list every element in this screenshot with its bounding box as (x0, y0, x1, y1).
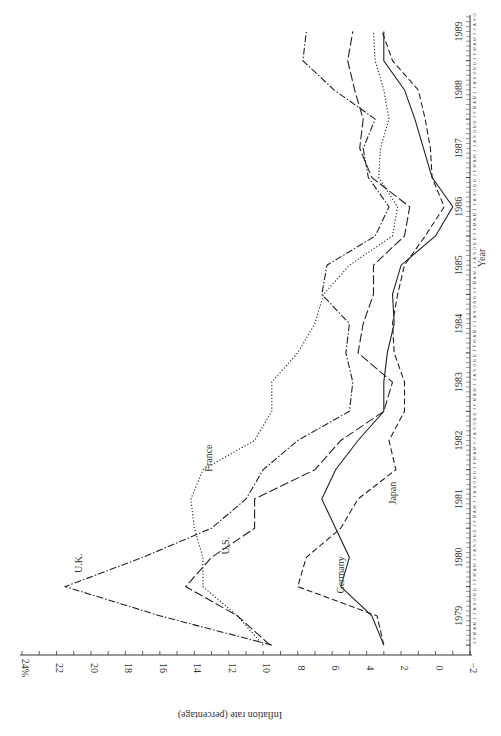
month-tick-label: O (472, 481, 477, 484)
month-tick-label: O (472, 422, 477, 425)
month-tick-label: N (472, 242, 477, 245)
month-tick-label: D (472, 413, 477, 416)
month-tick-label: M (472, 330, 477, 333)
month-tick-label: M (472, 47, 477, 50)
month-tick-label: S (472, 427, 477, 430)
month-tick-label: N (472, 359, 477, 362)
month-tick-label: O (472, 130, 477, 133)
month-tick-label: J (472, 442, 477, 444)
month-tick-label: F (472, 578, 477, 581)
month-tick-label: J (472, 321, 477, 323)
month-tick-label: S (472, 135, 477, 138)
month-tick-label: M (472, 164, 477, 167)
month-tick-label: A (472, 140, 477, 143)
month-tick-label: S (472, 602, 477, 605)
month-tick-label: D (472, 296, 477, 299)
month-tick-label: F (472, 286, 477, 289)
month-tick-label: M (472, 38, 477, 41)
year-tick-label: 1985 (453, 255, 464, 275)
series-label: Germany (335, 556, 346, 593)
month-tick-label: J (472, 584, 477, 586)
month-tick-label: F (472, 169, 477, 172)
x-axis-title: Year (476, 248, 487, 267)
month-tick-label: O (472, 189, 477, 192)
month-tick-label: A (472, 42, 477, 45)
month-tick-label: A (472, 451, 477, 454)
month-tick-label: S (472, 369, 477, 372)
y-tick-label: 18 (123, 663, 134, 673)
month-tick-label: N (472, 301, 477, 304)
y-tick-label: 2 (399, 666, 410, 671)
month-tick-label: A (472, 627, 477, 630)
y-tick-label: 10 (261, 663, 272, 673)
year-axis: JFMAMJJASONDJFMAMJJASONDJFMAMJJASONDJFMA… (453, 13, 477, 655)
series-label: Japan (387, 482, 398, 505)
y-tick-label: 6 (330, 666, 341, 671)
month-tick-label: J (472, 467, 477, 469)
year-tick-label: 1986 (453, 197, 464, 217)
month-tick-label: J (472, 33, 477, 35)
month-tick-label: J (472, 233, 477, 235)
y-tick-label: 24% (20, 659, 31, 677)
month-tick-label: F (472, 636, 477, 639)
month-tick-label: A (472, 607, 477, 610)
month-tick-label: M (472, 154, 477, 157)
series-label: France (203, 444, 214, 472)
month-tick-label: M (472, 106, 477, 109)
month-tick-label: O (472, 13, 477, 16)
month-tick-label: M (472, 388, 477, 391)
month-tick-label: J (472, 525, 477, 527)
month-tick-label: M (472, 447, 477, 450)
month-tick-label: N (472, 184, 477, 187)
month-tick-label: A (472, 276, 477, 279)
month-tick-label: J (472, 384, 477, 386)
month-tick-label: D (472, 354, 477, 357)
month-tick-label: N (472, 534, 477, 537)
month-tick-label: J (472, 379, 477, 381)
month-tick-label: D (472, 237, 477, 240)
month-tick-label: J (472, 326, 477, 328)
month-tick-label: D (472, 529, 477, 532)
month-tick-label: O (472, 539, 477, 542)
month-tick-label: J (472, 496, 477, 498)
month-tick-label: F (472, 110, 477, 113)
month-tick-label: D (472, 179, 477, 182)
month-tick-label: N (472, 67, 477, 70)
month-tick-label: F (472, 344, 477, 347)
month-tick-label: J (472, 559, 477, 561)
month-tick-label: J (472, 501, 477, 503)
year-tick-label: 1987 (453, 138, 464, 158)
month-tick-label: M (472, 505, 477, 508)
month-tick-label: N (472, 476, 477, 479)
y-tick-label: 16 (158, 663, 169, 673)
year-tick-label: 1983 (453, 372, 464, 392)
month-tick-label: A (472, 432, 477, 435)
month-tick-label: A (472, 374, 477, 377)
month-tick-label: M (472, 632, 477, 635)
month-tick-label: M (472, 223, 477, 226)
month-tick-label: S (472, 310, 477, 313)
month-tick-label: J (472, 408, 477, 410)
month-tick-label: S (472, 18, 477, 21)
series-labels: U.K.U.S.FranceGermanyJapan (73, 444, 398, 594)
month-tick-label: J (472, 209, 477, 211)
month-tick-label: A (472, 198, 477, 201)
series-label: U.K. (73, 554, 84, 573)
month-tick-label: J (472, 613, 477, 615)
month-tick-label: A (472, 101, 477, 104)
inflation-line-chart: 24%2220181614121086420−2 JFMAMJJASONDJFM… (0, 0, 501, 736)
month-tick-label: D (472, 588, 477, 591)
month-tick-label: O (472, 598, 477, 601)
month-tick-label: J (472, 116, 477, 118)
y-tick-label: 20 (89, 663, 100, 673)
series-label: U.S. (220, 537, 231, 555)
month-tick-label: O (472, 72, 477, 75)
month-tick-label: O (472, 305, 477, 308)
month-tick-label: J (472, 145, 477, 147)
month-tick-label: S (472, 193, 477, 196)
y-tick-label: −2 (468, 663, 479, 674)
year-tick-label: 1989 (453, 21, 464, 41)
series-lines (65, 31, 453, 645)
month-tick-label: N (472, 125, 477, 128)
month-tick-label: J (472, 618, 477, 620)
